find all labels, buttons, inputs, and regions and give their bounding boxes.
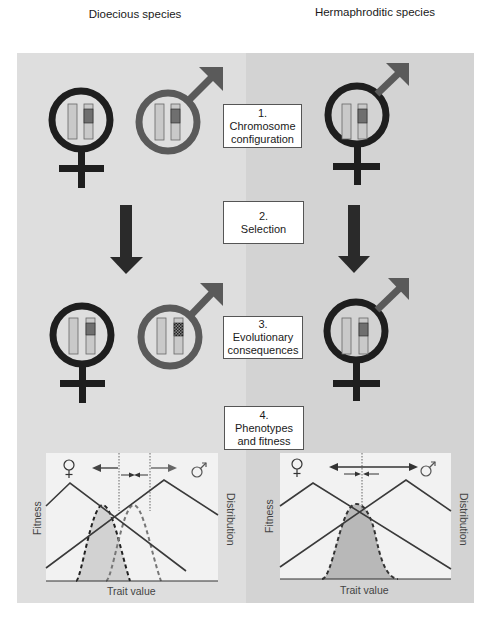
chart-hermaphroditic-ylabel-right: Distribution xyxy=(458,493,470,546)
female-legend-icon xyxy=(64,460,74,478)
step-2-box: 2. Selection xyxy=(223,201,304,244)
step-4-box: 4. Phenotypes and fitness xyxy=(224,406,304,450)
female-legend-icon xyxy=(292,459,302,477)
chart-hermaphroditic-xlabel: Trait value xyxy=(340,584,389,596)
female-symbol-row1 xyxy=(52,91,110,188)
step-3-number: 3. xyxy=(224,318,302,331)
chart-hermaphroditic-plot xyxy=(280,453,451,579)
male-symbol-row1 xyxy=(139,67,223,151)
step-1-line2: configuration xyxy=(224,133,301,146)
step-2-number: 2. xyxy=(224,210,303,223)
chart-dioecious-ylabel-right: Distribution xyxy=(225,493,237,546)
step-1-line1: Chromosome xyxy=(224,120,301,133)
chart-dioecious-xlabel: Trait value xyxy=(107,585,156,597)
down-arrow-hermaphroditic xyxy=(338,205,370,273)
male-symbol-row3 xyxy=(141,283,223,366)
down-arrow-dioecious xyxy=(110,205,143,274)
chart-dioecious-ylabel: Fitness xyxy=(31,501,43,535)
step-3-line2: consequences xyxy=(224,344,302,357)
male-legend-icon xyxy=(421,462,435,476)
step-4-line2: and fitness xyxy=(225,435,303,448)
step-3-line1: Evolutionary xyxy=(224,331,302,344)
hermaphrodite-symbol-row3 xyxy=(327,278,409,401)
step-2-line1: Selection xyxy=(224,223,303,236)
hermaphrodite-symbol-row1 xyxy=(328,63,409,185)
step-1-number: 1. xyxy=(224,107,301,120)
female-symbol-row3 xyxy=(53,306,111,403)
step-3-box: 3. Evolutionary consequences xyxy=(223,316,303,359)
chart-dioecious-plot xyxy=(46,453,218,581)
step-4-line1: Phenotypes xyxy=(225,422,303,435)
step-4-number: 4. xyxy=(225,409,303,422)
chart-hermaphroditic-ylabel: Fitness xyxy=(263,499,275,533)
step-1-box: 1. Chromosome configuration xyxy=(223,104,302,148)
male-legend-icon xyxy=(192,463,206,477)
